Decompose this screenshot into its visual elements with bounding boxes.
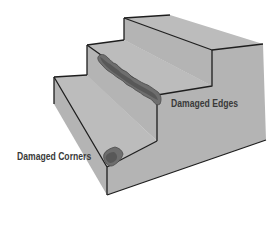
damaged-corners-label: Damaged Corners — [17, 151, 91, 162]
steps-diagram: Damaged Edges Damaged Corners — [0, 0, 275, 225]
steps-illustration — [0, 0, 275, 225]
damaged-edges-label: Damaged Edges — [171, 98, 238, 109]
